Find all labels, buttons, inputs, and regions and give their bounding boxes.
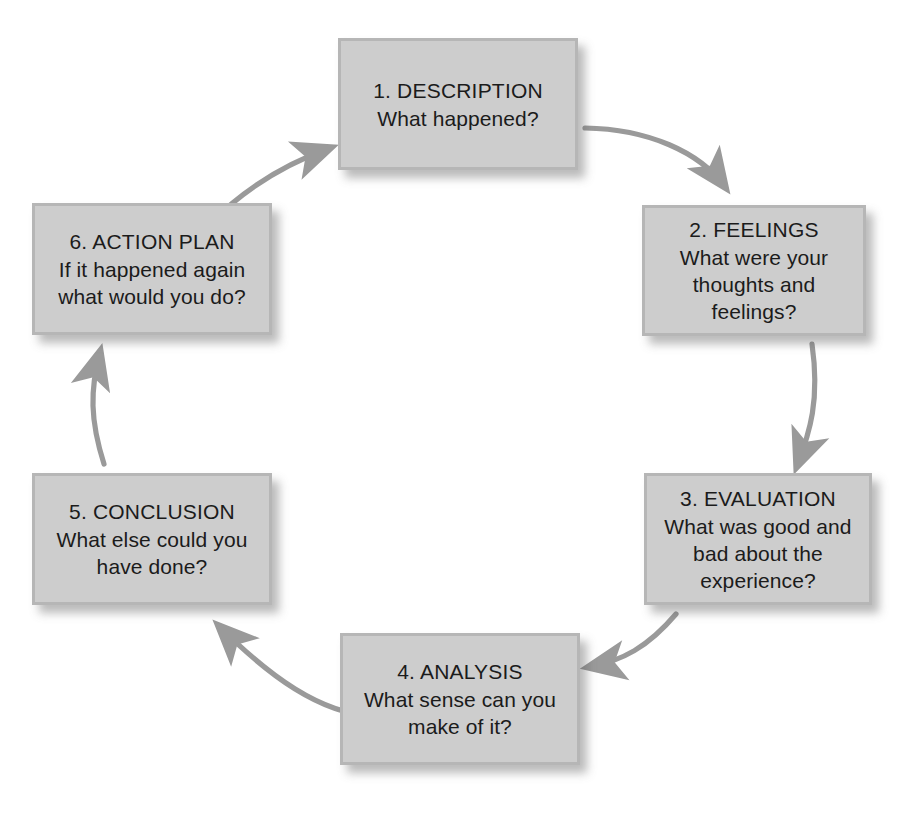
arrow-evaluation-to-analysis — [589, 614, 676, 667]
node-analysis[interactable]: 4. ANALYSIS What sense can you make of i… — [340, 633, 580, 765]
node-feelings-body: What were your thoughts and feelings? — [653, 244, 855, 325]
node-action-plan-title: 6. ACTION PLAN — [69, 228, 234, 256]
node-description-title: 1. DESCRIPTION — [373, 77, 543, 105]
arrow-feelings-to-evaluation — [797, 344, 815, 466]
node-feelings-title: 2. FEELINGS — [689, 216, 818, 244]
node-analysis-title: 4. ANALYSIS — [397, 658, 523, 686]
node-action-plan-body: If it happened again what would you do? — [43, 256, 261, 310]
node-conclusion[interactable]: 5. CONCLUSION What else could you have d… — [32, 473, 272, 605]
arrow-description-to-feelings — [585, 128, 725, 187]
node-action-plan[interactable]: 6. ACTION PLAN If it happened again what… — [32, 203, 272, 335]
node-evaluation-body: What was good and bad about the experien… — [655, 513, 861, 594]
node-evaluation[interactable]: 3. EVALUATION What was good and bad abou… — [644, 473, 872, 605]
node-analysis-body: What sense can you make of it? — [351, 686, 569, 740]
node-conclusion-title: 5. CONCLUSION — [69, 498, 235, 526]
node-evaluation-title: 3. EVALUATION — [680, 485, 836, 513]
node-description-body: What happened? — [377, 105, 538, 132]
node-conclusion-body: What else could you have done? — [43, 526, 261, 580]
gibbs-reflective-cycle-diagram: 1. DESCRIPTION What happened? 2. FEELING… — [0, 0, 916, 820]
node-description[interactable]: 1. DESCRIPTION What happened? — [338, 38, 578, 170]
arrow-conclusion-to-actionplan — [93, 352, 104, 464]
node-feelings[interactable]: 2. FEELINGS What were your thoughts and … — [642, 205, 866, 336]
